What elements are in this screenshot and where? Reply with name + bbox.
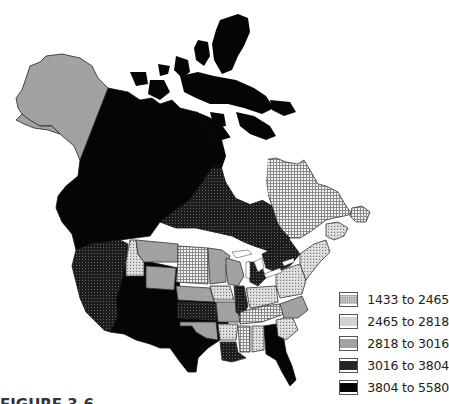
figure-caption-clipped: FIGURE 3.6 bbox=[0, 398, 449, 404]
legend-item: 2465 to 2818 bbox=[339, 310, 449, 332]
legend-label: 3804 to 5580 bbox=[367, 380, 449, 395]
region-dakotas bbox=[176, 246, 208, 284]
legend-label: 2818 to 3016 bbox=[367, 336, 449, 351]
legend-swatch-fine-grid-light bbox=[339, 292, 358, 307]
region-kansas bbox=[178, 302, 216, 320]
region-new-england bbox=[300, 240, 330, 280]
legend-item: 2818 to 3016 bbox=[339, 332, 449, 354]
region-virginia-nc bbox=[280, 296, 308, 318]
region-montana bbox=[136, 240, 178, 262]
region-carolinas bbox=[276, 316, 298, 340]
legend-item: 3804 to 5580 bbox=[339, 376, 449, 398]
legend-item: 1433 to 2465 bbox=[339, 288, 449, 310]
map-legend: 1433 to 2465 2465 to 2818 2818 to 3016 3… bbox=[339, 288, 449, 398]
legend-label: 2465 to 2818 bbox=[367, 314, 449, 329]
region-wyoming bbox=[146, 266, 176, 290]
legend-swatch-solid-gray bbox=[339, 336, 358, 351]
region-alabama bbox=[252, 326, 264, 352]
region-arkansas bbox=[218, 324, 238, 340]
region-iowa bbox=[210, 286, 234, 300]
region-mississippi bbox=[238, 326, 250, 352]
region-wisconsin bbox=[226, 258, 244, 286]
figure-caption-text: FIGURE 3.6 bbox=[0, 398, 449, 404]
legend-item: 3016 to 3804 bbox=[339, 354, 449, 376]
region-maritimes bbox=[326, 222, 348, 240]
region-newfoundland bbox=[350, 206, 370, 222]
legend-swatch-solid-black bbox=[339, 380, 358, 395]
legend-label: 1433 to 2465 bbox=[367, 292, 449, 307]
legend-swatch-stipple-light bbox=[339, 314, 358, 329]
legend-label: 3016 to 3804 bbox=[367, 358, 449, 373]
region-nebraska bbox=[176, 286, 214, 302]
legend-swatch-fine-grid-dark bbox=[339, 358, 358, 373]
